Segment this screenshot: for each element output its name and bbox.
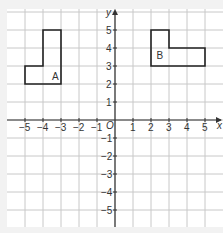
x-tick-label: −4: [37, 122, 49, 133]
y-tick-label: −4: [101, 187, 113, 198]
grid-canvas: xyO−5−4−3−2−11234554321−1−2−3−4−5AB: [0, 0, 223, 233]
x-tick-label: −3: [55, 122, 67, 133]
x-tick-label: 4: [184, 122, 190, 133]
x-axis-label: x: [216, 120, 223, 131]
y-tick-label: 5: [106, 25, 112, 36]
x-tick-label: −1: [91, 122, 103, 133]
x-tick-label: 2: [148, 122, 154, 133]
y-tick-label: 4: [106, 43, 112, 54]
y-tick-label: 2: [106, 79, 112, 90]
x-tick-label: 1: [130, 122, 136, 133]
y-tick-label: 3: [106, 61, 112, 72]
y-tick-label: −5: [101, 205, 113, 216]
y-tick-label: −1: [101, 133, 113, 144]
y-tick-label: −2: [101, 151, 113, 162]
shape-label-a: A: [52, 71, 59, 82]
coordinate-grid: xyO−5−4−3−2−11234554321−1−2−3−4−5AB: [0, 0, 223, 233]
x-tick-label: 3: [166, 122, 172, 133]
shape-label-b: B: [156, 50, 163, 61]
origin-label: O: [106, 120, 114, 131]
x-tick-label: −2: [73, 122, 85, 133]
x-tick-label: −5: [19, 122, 31, 133]
x-tick-label: 5: [202, 122, 208, 133]
y-axis-label: y: [105, 7, 112, 18]
y-tick-label: 1: [106, 97, 112, 108]
y-tick-label: −3: [101, 169, 113, 180]
